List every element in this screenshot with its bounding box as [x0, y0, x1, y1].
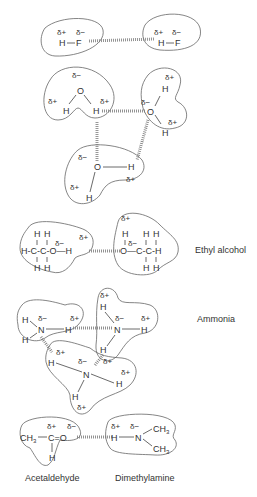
svg-text:δ+: δ+: [141, 314, 150, 323]
svg-text:δ+: δ+: [70, 314, 79, 323]
svg-text:H: H: [34, 263, 41, 273]
svg-text:δ−: δ−: [72, 71, 81, 80]
svg-text:H: H: [116, 379, 123, 389]
svg-text:H: H: [22, 335, 29, 345]
svg-text:F: F: [175, 38, 181, 48]
svg-text:H: H: [162, 84, 169, 94]
svg-text:H: H: [44, 263, 51, 273]
svg-text:H: H: [93, 106, 100, 116]
svg-text:CH: CH: [153, 424, 166, 434]
svg-text:δ+: δ+: [57, 28, 66, 37]
svg-text:δ−: δ−: [38, 314, 47, 323]
svg-text:δ+: δ+: [100, 97, 109, 106]
svg-text:H: H: [153, 229, 160, 239]
hf-group: δ+δ− HF δ+δ− HF: [41, 14, 200, 56]
svg-text:N: N: [83, 370, 90, 380]
svg-text:O—C-C-H: O—C-C-H: [120, 246, 162, 256]
svg-text:H: H: [141, 325, 148, 335]
svg-text:H: H: [48, 358, 55, 368]
svg-text:N: N: [114, 325, 121, 335]
svg-text:δ+: δ+: [56, 348, 65, 357]
acetaldehyde-dimethylamine-group: δ+δ− CH3 C=O H δ+δ− H N CH3 CH3: [20, 414, 176, 465]
ammonia-label: Ammonia: [197, 314, 235, 324]
svg-text:3: 3: [166, 449, 170, 455]
svg-text:H: H: [44, 229, 51, 239]
svg-text:H-C-C-O—H: H-C-C-O—H: [21, 246, 72, 256]
svg-text:H: H: [63, 106, 70, 116]
svg-text:δ+: δ+: [168, 118, 177, 127]
svg-text:H: H: [100, 302, 107, 312]
svg-text:F: F: [76, 38, 82, 48]
svg-text:H: H: [86, 193, 93, 203]
svg-text:H: H: [100, 345, 107, 355]
svg-text:3: 3: [33, 438, 37, 444]
ethyl-alcohol-label: Ethyl alcohol: [195, 245, 246, 255]
svg-text:O: O: [77, 86, 84, 96]
svg-text:δ+: δ+: [126, 175, 135, 184]
svg-text:δ+: δ+: [154, 28, 163, 37]
svg-text:H: H: [162, 128, 169, 138]
svg-text:δ−: δ−: [78, 357, 87, 366]
svg-text:H: H: [111, 433, 118, 443]
svg-text:H: H: [59, 38, 66, 48]
svg-text:δ+: δ+: [100, 291, 109, 300]
svg-text:C=O: C=O: [48, 433, 67, 443]
svg-text:δ+: δ+: [77, 403, 86, 412]
svg-text:H: H: [65, 325, 72, 335]
svg-text:δ+: δ+: [121, 214, 130, 223]
svg-text:H: H: [143, 263, 150, 273]
water-group: δ− δ+Oδ+ HH δ+H δ−O δ+H δ−O H δ+ δ+H: [44, 67, 187, 204]
acetaldehyde-label: Acetaldehyde: [25, 473, 80, 483]
svg-text:δ−: δ−: [76, 28, 85, 37]
svg-text:δ−: δ−: [130, 422, 139, 431]
svg-text:H: H: [122, 229, 129, 239]
svg-text:δ+: δ+: [103, 357, 112, 366]
svg-text:CH: CH: [153, 444, 166, 454]
svg-text:N: N: [38, 325, 45, 335]
svg-text:δ+: δ+: [121, 368, 130, 377]
svg-text:O: O: [94, 162, 101, 172]
svg-text:H: H: [22, 315, 29, 325]
svg-text:δ−: δ−: [78, 153, 87, 162]
dimethylamine-label: Dimethylamine: [115, 473, 175, 483]
svg-text:O: O: [147, 107, 154, 117]
svg-text:δ−: δ−: [172, 28, 181, 37]
svg-text:H: H: [143, 229, 150, 239]
svg-text:H: H: [49, 453, 56, 463]
svg-text:δ+: δ+: [165, 73, 174, 82]
svg-text:CH: CH: [20, 433, 33, 443]
svg-text:δ+: δ+: [48, 97, 57, 106]
ethyl-alcohol-group: HH δ−δ+ H-C-C-O—H HH δ+ HHH δ− O—C-C-H H…: [20, 213, 178, 275]
svg-text:H: H: [158, 38, 165, 48]
svg-text:H: H: [128, 162, 135, 172]
svg-text:δ−: δ−: [67, 422, 76, 431]
svg-text:H: H: [153, 263, 160, 273]
ammonia-group: H δ−δ+ NH H δ+H δ−δ+ NH H δ+δ+ H δ−N H δ…: [17, 288, 158, 414]
svg-text:3: 3: [166, 429, 170, 435]
svg-text:N: N: [135, 433, 142, 443]
svg-text:δ−: δ−: [115, 314, 124, 323]
svg-text:δ+: δ+: [111, 422, 120, 431]
svg-text:H: H: [34, 229, 41, 239]
svg-text:H: H: [72, 392, 79, 402]
svg-text:δ+: δ+: [47, 422, 56, 431]
svg-text:δ+: δ+: [79, 233, 88, 242]
svg-text:δ+: δ+: [70, 183, 79, 192]
svg-text:δ−: δ−: [141, 98, 150, 107]
